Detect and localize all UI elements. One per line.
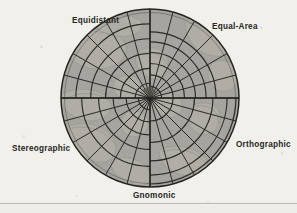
- page-divider-rule: [0, 203, 297, 204]
- page-footer-band: [0, 205, 297, 213]
- projection-figure: [0, 0, 297, 213]
- label-equal-area: Equal-Area: [212, 22, 258, 31]
- label-gnomonic: Gnomonic: [133, 191, 175, 200]
- label-orthographic: Orthographic: [236, 140, 291, 149]
- label-stereographic: Stereographic: [12, 144, 70, 153]
- projection-disc: [60, 9, 239, 187]
- label-equidistant: Equidistant: [72, 16, 119, 25]
